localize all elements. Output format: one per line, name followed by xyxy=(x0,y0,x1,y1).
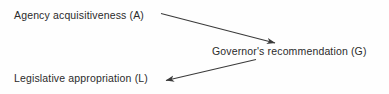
node-label-legislative-appropriation: Legislative appropriation (L) xyxy=(14,72,148,85)
arrow-agency-to-governor xyxy=(161,14,275,44)
node-label-agency-acquisitiveness: Agency acquisitiveness (A) xyxy=(14,9,144,22)
diagram-canvas: Agency acquisitiveness (A) Governor's re… xyxy=(0,0,389,94)
node-label-governors-recommendation: Governor's recommendation (G) xyxy=(212,45,367,58)
arrow-governor-to-legislative xyxy=(166,60,256,81)
